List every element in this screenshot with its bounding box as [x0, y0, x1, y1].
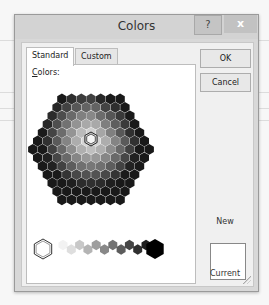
color-cell[interactable]	[52, 119, 61, 130]
color-cell[interactable]	[86, 194, 95, 205]
color-cell[interactable]	[96, 144, 105, 155]
color-cell[interactable]	[28, 144, 37, 155]
color-cell[interactable]	[111, 186, 120, 197]
color-cell[interactable]	[52, 152, 61, 163]
color-cell[interactable]	[111, 136, 120, 147]
color-cell[interactable]	[91, 152, 100, 163]
tab-custom[interactable]: Custom	[75, 48, 118, 65]
color-cell[interactable]	[67, 161, 76, 172]
white-color-cell[interactable]	[34, 239, 51, 259]
color-cell[interactable]	[82, 169, 91, 180]
color-cell[interactable]	[52, 136, 61, 147]
color-cell[interactable]	[72, 169, 81, 180]
color-cell[interactable]	[57, 110, 66, 121]
help-button[interactable]: ?	[194, 15, 222, 35]
color-cell[interactable]	[72, 119, 81, 130]
color-cell[interactable]	[86, 94, 95, 105]
color-cell[interactable]	[33, 152, 42, 163]
color-cell[interactable]	[57, 127, 66, 138]
color-cell[interactable]	[96, 194, 105, 205]
color-cell[interactable]	[91, 102, 100, 113]
color-cell[interactable]	[43, 169, 52, 180]
color-cell[interactable]	[62, 169, 71, 180]
gray-color-cell[interactable]	[75, 240, 84, 250]
color-cell[interactable]	[101, 102, 110, 113]
color-cell[interactable]	[77, 110, 86, 121]
color-cell[interactable]	[57, 144, 66, 155]
color-cell[interactable]	[91, 119, 100, 130]
color-cell[interactable]	[101, 152, 110, 163]
ok-button[interactable]: OK	[200, 49, 251, 68]
color-cell[interactable]	[120, 169, 129, 180]
gray-color-cell[interactable]	[67, 244, 76, 254]
color-cell[interactable]	[77, 161, 86, 172]
color-cell[interactable]	[72, 152, 81, 163]
color-cell[interactable]	[33, 136, 42, 147]
color-honeycomb[interactable]	[27, 65, 195, 283]
color-cell[interactable]	[62, 136, 71, 147]
color-cell[interactable]	[82, 186, 91, 197]
color-cell[interactable]	[135, 127, 144, 138]
tab-standard[interactable]: Standard	[26, 47, 74, 66]
color-cell[interactable]	[48, 127, 57, 138]
color-cell[interactable]	[130, 169, 139, 180]
color-cell[interactable]	[101, 169, 110, 180]
color-cell[interactable]	[115, 194, 124, 205]
color-cell[interactable]	[52, 169, 61, 180]
color-cell[interactable]	[106, 178, 115, 189]
color-cell[interactable]	[82, 119, 91, 130]
color-cell[interactable]	[125, 110, 134, 121]
color-cell[interactable]	[120, 152, 129, 163]
title-bar[interactable]: Colors ? x	[15, 15, 258, 39]
color-cell[interactable]	[140, 152, 149, 163]
color-cell[interactable]	[86, 161, 95, 172]
color-cell[interactable]	[57, 194, 66, 205]
color-cell[interactable]	[91, 186, 100, 197]
color-cell[interactable]	[67, 144, 76, 155]
color-cell[interactable]	[48, 110, 57, 121]
color-cell[interactable]	[125, 127, 134, 138]
color-cell[interactable]	[96, 178, 105, 189]
color-cell[interactable]	[48, 144, 57, 155]
color-cell[interactable]	[67, 110, 76, 121]
gray-color-cell[interactable]	[59, 240, 68, 250]
color-cell[interactable]	[111, 169, 120, 180]
color-cell[interactable]	[86, 178, 95, 189]
color-cell[interactable]	[96, 110, 105, 121]
color-cell[interactable]	[52, 186, 61, 197]
color-cell[interactable]	[43, 152, 52, 163]
color-cell[interactable]	[67, 194, 76, 205]
color-cell[interactable]	[135, 144, 144, 155]
color-cell[interactable]	[111, 102, 120, 113]
color-cell[interactable]	[62, 102, 71, 113]
color-cell[interactable]	[72, 136, 81, 147]
color-cell[interactable]	[82, 152, 91, 163]
gray-color-cell[interactable]	[133, 244, 142, 254]
color-cell[interactable]	[101, 186, 110, 197]
color-cell[interactable]	[67, 94, 76, 105]
color-cell[interactable]	[106, 110, 115, 121]
color-cell[interactable]	[140, 136, 149, 147]
color-cell[interactable]	[111, 119, 120, 130]
color-cell[interactable]	[115, 161, 124, 172]
color-cell[interactable]	[62, 186, 71, 197]
color-cell[interactable]	[106, 94, 115, 105]
color-cell[interactable]	[62, 119, 71, 130]
color-cell[interactable]	[38, 127, 47, 138]
gray-color-cell[interactable]	[83, 244, 92, 254]
color-cell[interactable]	[101, 119, 110, 130]
color-cell[interactable]	[48, 161, 57, 172]
color-cell[interactable]	[125, 178, 134, 189]
color-cell[interactable]	[125, 161, 134, 172]
color-cell[interactable]	[130, 152, 139, 163]
color-cell[interactable]	[101, 136, 110, 147]
color-cell[interactable]	[106, 194, 115, 205]
color-cell[interactable]	[111, 152, 120, 163]
color-cell[interactable]	[72, 102, 81, 113]
gray-color-cell[interactable]	[100, 244, 109, 254]
color-cell[interactable]	[77, 144, 86, 155]
color-cell[interactable]	[115, 144, 124, 155]
color-cell[interactable]	[125, 144, 134, 155]
color-cell[interactable]	[57, 161, 66, 172]
cancel-button[interactable]: Cancel	[200, 73, 251, 92]
